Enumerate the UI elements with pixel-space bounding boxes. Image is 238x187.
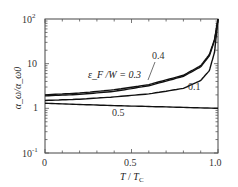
- x-axis-label: T / TC: [120, 171, 144, 184]
- x-tick-0.5: 0.5: [124, 157, 137, 168]
- x-tick-0: 0: [42, 157, 47, 168]
- annotation-0.3: ε_F /W = 0.3: [88, 69, 141, 80]
- y-axis-label: α_ω/α_ω0: [12, 67, 23, 109]
- chart: 102 10 1 10-1 0 0.5 1.0 T / TC α_ω/α_ω0 …: [0, 0, 238, 187]
- y-tick-0.1: 10-1: [22, 146, 38, 159]
- curves: [45, 19, 218, 108]
- curve-0.5: [45, 103, 218, 108]
- annotation-0.5: 0.5: [112, 107, 125, 118]
- y-tick-1: 1: [33, 102, 38, 113]
- annotation-0.1: 0.1: [188, 81, 201, 92]
- y-tick-100: 102: [22, 12, 36, 25]
- annotation-0.4-leader: [148, 62, 155, 80]
- y-tick-10: 10: [27, 58, 37, 69]
- annotation-0.4: 0.4: [152, 50, 165, 61]
- x-tick-1.0: 1.0: [209, 157, 222, 168]
